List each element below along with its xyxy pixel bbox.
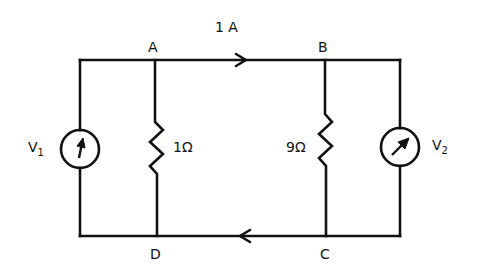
node-c-label: C <box>320 247 330 261</box>
resistor-2-label: 9Ω <box>286 140 306 154</box>
node-d-label: D <box>150 247 161 261</box>
circuit-diagram <box>0 0 480 279</box>
meter-v1-label: V1 <box>28 140 44 154</box>
current-label: 1 A <box>215 20 238 34</box>
meter-v2-label: V2 <box>432 138 448 152</box>
node-b-label: B <box>318 40 328 54</box>
node-a-label: A <box>148 40 158 54</box>
resistor-1ohm <box>150 60 163 236</box>
resistor-1-label: 1Ω <box>173 140 193 154</box>
resistor-9ohm <box>319 60 332 236</box>
